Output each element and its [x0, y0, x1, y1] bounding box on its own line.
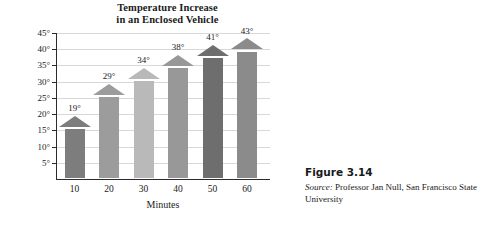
bar-body: [65, 129, 85, 178]
y-axis-tick: [52, 163, 56, 164]
bar-body: [237, 52, 257, 179]
bar-value-label: 43°: [241, 26, 254, 36]
bar-arrowhead: [59, 116, 91, 127]
bar-arrowhead: [128, 68, 160, 79]
bar-arrow: 19°: [59, 32, 91, 179]
x-axis-tick-label: 20: [104, 184, 114, 194]
bar-value-label: 19°: [68, 103, 81, 113]
bar-arrowhead: [231, 38, 263, 49]
bar-value-label: 38°: [172, 42, 185, 52]
y-axis-tick-label: 40°: [37, 44, 50, 54]
source-label: Source:: [305, 182, 333, 192]
y-axis-tick-label: 45°: [37, 28, 50, 38]
figure-number: Figure 3.14: [305, 166, 485, 178]
y-axis-line: [56, 33, 57, 180]
x-axis-tick-label: 30: [139, 184, 149, 194]
chart-title-line-1: Temperature Increase: [60, 2, 275, 14]
bar-body: [134, 81, 154, 178]
y-axis-tick: [52, 65, 56, 66]
bar-arrowhead: [197, 45, 229, 56]
bar-arrow: 38°: [162, 32, 194, 179]
y-axis-tick-label: 15°: [37, 125, 50, 135]
y-axis-tick-label: 20°: [37, 109, 50, 119]
bar-arrowhead: [93, 84, 125, 95]
y-axis-tick-label: 5°: [42, 158, 50, 168]
y-axis-tick-label: 30°: [37, 77, 50, 87]
y-axis-tick: [52, 114, 56, 115]
x-axis-line: [56, 179, 270, 180]
y-axis-tick: [52, 82, 56, 83]
y-axis-tick-label: 10°: [37, 142, 50, 152]
x-axis-tick-label: 10: [70, 184, 80, 194]
bar-value-label: 41°: [206, 32, 219, 42]
y-axis-title: Temperature Increase (°F): [0, 0, 4, 40]
x-axis-title: Minutes: [56, 199, 270, 210]
y-axis-tick: [52, 49, 56, 50]
chart-title-line-2: in an Enclosed Vehicle: [60, 14, 275, 26]
y-axis-tick-label: 35°: [37, 60, 50, 70]
bar-body: [99, 97, 119, 178]
bar-body: [168, 68, 188, 178]
chart-title: Temperature Increase in an Enclosed Vehi…: [60, 2, 275, 26]
bar-value-label: 29°: [103, 71, 116, 81]
bar-value-label: 34°: [137, 55, 150, 65]
x-axis-tick-label: 50: [208, 184, 218, 194]
y-axis-tick: [52, 33, 56, 34]
x-axis-tick-label: 60: [242, 184, 252, 194]
y-axis-tick: [52, 147, 56, 148]
y-axis-tick: [52, 130, 56, 131]
bar-arrowhead: [162, 55, 194, 66]
bar-arrow: 29°: [93, 32, 125, 179]
figure-caption: Figure 3.14 Source: Professor Jan Null, …: [305, 166, 485, 205]
bar-arrow: 43°: [231, 32, 263, 179]
plot-area: 5°10°15°20°25°30°35°40°45° 19°29°34°38°4…: [56, 33, 270, 180]
bar-arrow: 41°: [197, 32, 229, 179]
x-axis-tick-label: 40: [173, 184, 183, 194]
bar-body: [203, 58, 223, 178]
source-note: Source: Professor Jan Null, San Francisc…: [305, 182, 485, 205]
bar-arrow: 34°: [128, 32, 160, 179]
y-axis-tick-label: 25°: [37, 93, 50, 103]
y-axis-tick: [52, 98, 56, 99]
